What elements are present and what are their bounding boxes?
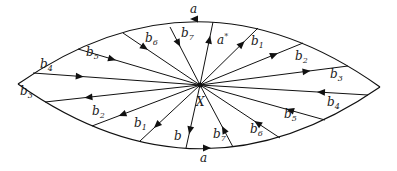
arrow-icon xyxy=(269,53,278,59)
center-hub xyxy=(198,83,203,88)
spokes xyxy=(33,22,368,148)
arrow-icon xyxy=(119,110,128,116)
arrow-icon xyxy=(187,126,194,135)
arrow-icon xyxy=(205,36,212,45)
label-b-bottom: b xyxy=(174,129,182,143)
spoke-b6-right xyxy=(200,85,280,138)
label-b6-left: b6 xyxy=(145,31,158,47)
arrow-icon xyxy=(317,89,325,96)
label-top-a: a xyxy=(190,2,197,16)
arrow-icon xyxy=(84,93,92,100)
spoke-a-star xyxy=(200,22,213,85)
label-b4-left: b4 xyxy=(40,57,53,73)
label-b3-left: b3 xyxy=(20,84,33,100)
spoke-b5-right xyxy=(200,85,325,120)
arrow-icon xyxy=(76,73,84,80)
label-b7-left: b7 xyxy=(181,26,195,42)
label-b3-right: b3 xyxy=(330,67,343,83)
label-b4-right: b4 xyxy=(327,95,340,111)
arrow-icon xyxy=(302,68,310,75)
label-b5-left: b5 xyxy=(86,45,99,61)
label-center-x: X xyxy=(195,95,205,109)
label-b1-left: b1 xyxy=(134,116,147,132)
spoke-b4-right xyxy=(200,85,368,96)
bottom-arc-a xyxy=(18,84,380,149)
label-bottom-a: a xyxy=(200,151,207,165)
label-b1-right: b1 xyxy=(251,34,264,50)
arrow-icon xyxy=(107,55,116,62)
label-b2-left: b2 xyxy=(92,104,105,120)
label-b2-right: b2 xyxy=(295,49,308,65)
top-arc-a xyxy=(18,22,380,87)
spoke-b4-left xyxy=(33,73,200,85)
spoke-b1-left xyxy=(140,85,200,141)
label-b5-right: b5 xyxy=(284,107,297,123)
diagram-canvas: b4b5b6b7a*b1b2b3b3b2b1bb7b6b5b4aaX xyxy=(0,0,397,171)
label-a-star: a* xyxy=(217,32,228,47)
spoke-b1-right xyxy=(200,28,258,85)
